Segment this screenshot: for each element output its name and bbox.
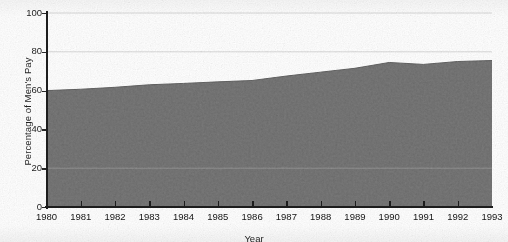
x-tick-mark — [286, 201, 287, 206]
x-tick-mark — [458, 201, 459, 206]
x-tick-mark — [81, 201, 82, 206]
x-tick-mark — [115, 201, 116, 206]
x-tick-mark — [184, 201, 185, 206]
x-axis-title: Year — [0, 233, 508, 242]
area-series — [47, 61, 493, 207]
x-tick-mark — [355, 201, 356, 206]
x-tick-mark — [321, 201, 322, 206]
x-tick-mark — [149, 201, 150, 206]
x-tick-mark — [252, 201, 253, 206]
x-tick-mark — [423, 201, 424, 206]
x-tick-label: 1993 — [472, 211, 508, 222]
x-tick-mark — [218, 201, 219, 206]
y-axis-line — [46, 11, 48, 209]
chart-figure: Percentage of Men's Pay 020406080100 — [0, 0, 508, 242]
x-axis-line — [45, 206, 493, 208]
x-tick-mark — [389, 201, 390, 206]
